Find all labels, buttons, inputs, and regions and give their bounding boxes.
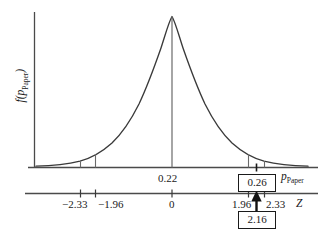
- normal-distribution-figure: f(pPaper) pPaper Z 0.22 0.26 −2.33 −1.96…: [0, 0, 326, 243]
- p-axis-name-subscript: Paper: [287, 176, 304, 185]
- y-axis-label-subscript: Paper: [21, 73, 30, 90]
- z-axis-tick-label-2-33: 2.33: [266, 199, 285, 210]
- y-axis-label-close: ): [14, 69, 26, 73]
- z-axis-name: Z: [296, 198, 302, 210]
- p-observed-boxed-label: 0.26: [238, 174, 276, 192]
- p-axis-tick-label-0-22: 0.22: [158, 173, 177, 184]
- y-axis-label: f(pPaper): [14, 55, 29, 117]
- p-axis-name: pPaper: [281, 171, 304, 185]
- z-axis-tick-label-neg-2-33: −2.33: [62, 199, 87, 210]
- y-axis-label-base: f(p: [14, 90, 26, 103]
- z-axis-tick-label-1-96: 1.96: [232, 199, 251, 210]
- z-axis-tick-label-neg-1-96: −1.96: [98, 199, 123, 210]
- z-axis-tick-label-0: 0: [169, 199, 175, 210]
- z-observed-boxed-label: 2.16: [238, 211, 276, 229]
